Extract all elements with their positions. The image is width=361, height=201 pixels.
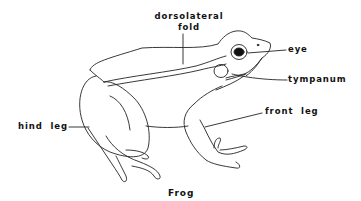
label-tympanum: tympanum xyxy=(288,75,346,84)
dorsolateral-fold-line-lower xyxy=(108,64,226,86)
front-leg-outline xyxy=(184,104,240,168)
eye-pupil xyxy=(234,48,244,56)
nostril xyxy=(257,44,259,46)
diagram-title: Frog xyxy=(168,189,194,198)
hind-thigh-inner xyxy=(110,96,130,130)
label-eye: eye xyxy=(288,45,308,54)
label-dorsolateral-fold-line1: dorsolateral xyxy=(153,12,225,21)
label-front-leg: front leg xyxy=(265,107,319,116)
hind-thigh-outline xyxy=(80,76,150,157)
hind-toe-1 xyxy=(106,136,160,179)
front-toe xyxy=(214,138,221,148)
tympanum-shape xyxy=(214,65,228,78)
label-hind-leg: hind leg xyxy=(18,122,68,131)
frog-diagram: dorsolateral fold eye tympanum front leg… xyxy=(0,0,361,201)
hind-foot-outline xyxy=(88,128,127,182)
frog-rump-outline xyxy=(90,70,104,82)
belly-outline xyxy=(146,126,188,128)
dorsolateral-fold-line xyxy=(104,56,226,82)
label-dorsolateral-fold-line2: fold xyxy=(153,23,225,32)
leader-front-leg xyxy=(205,113,262,127)
front-shoulder xyxy=(194,86,222,104)
leader-eye xyxy=(248,50,286,53)
front-leg-inner xyxy=(200,120,247,154)
